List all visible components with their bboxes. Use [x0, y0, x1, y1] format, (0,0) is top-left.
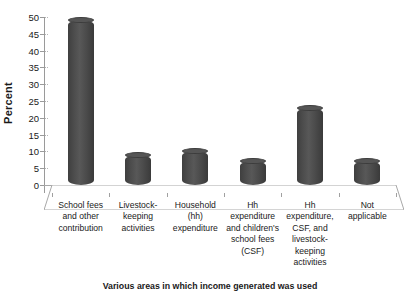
- y-tick-mark: [40, 34, 44, 35]
- y-tick-label: 5: [34, 163, 39, 174]
- y-tick-mark: [40, 151, 44, 152]
- y-tick-label: 10: [28, 146, 39, 157]
- bar: [297, 108, 323, 185]
- x-tick-mark: [167, 193, 168, 197]
- y-tick-inner-mark: [45, 168, 48, 169]
- plot-baseline: [44, 185, 396, 186]
- x-axis-ticks: [44, 193, 404, 198]
- category-label: School feesand othercontribution: [48, 200, 113, 234]
- x-tick-mark: [224, 193, 225, 197]
- x-tick-mark: [109, 193, 110, 197]
- y-tick-mark: [40, 17, 44, 18]
- plot-area: 05101520253035404550: [44, 17, 404, 193]
- bar: [182, 151, 208, 185]
- category-label: Livestock-keepingactivities: [105, 200, 170, 234]
- y-tick-inner-mark: [45, 17, 48, 18]
- bar-chart-figure: Percent 05101520253035404550 School fees…: [0, 0, 420, 308]
- y-axis-title: Percent: [2, 58, 18, 148]
- y-tick-label: 15: [28, 129, 39, 140]
- y-tick-inner-mark: [45, 101, 48, 102]
- x-tick-mark: [339, 193, 340, 197]
- category-label: Hhexpenditure,CSF, andlivestock-keepinga…: [277, 200, 342, 268]
- y-tick-inner-mark: [45, 67, 48, 68]
- x-tick-mark: [281, 193, 282, 197]
- y-tick-label: 40: [28, 45, 39, 56]
- y-tick-inner-mark: [45, 84, 48, 85]
- y-tick-label: 0: [34, 180, 39, 191]
- x-tick-mark: [396, 193, 397, 197]
- category-label: Household(hh)expenditure: [163, 200, 228, 234]
- y-tick-label: 30: [28, 79, 39, 90]
- y-tick-inner-mark: [45, 118, 48, 119]
- category-label: Hhexpenditureand children'sschool fees(C…: [220, 200, 285, 257]
- y-tick-inner-mark: [45, 135, 48, 136]
- y-tick-label: 25: [28, 96, 39, 107]
- x-axis-category-labels: School feesand othercontributionLivestoc…: [44, 200, 410, 272]
- y-axis-spine: [44, 17, 45, 193]
- y-tick-mark: [40, 51, 44, 52]
- y-tick-mark: [40, 168, 44, 169]
- y-tick-inner-mark: [45, 34, 48, 35]
- x-tick-mark: [52, 193, 53, 197]
- y-tick-mark: [40, 67, 44, 68]
- y-tick-label: 50: [28, 12, 39, 23]
- bar: [240, 161, 266, 185]
- category-label: Notapplicable: [335, 200, 400, 223]
- y-tick-inner-mark: [45, 51, 48, 52]
- x-axis-title: Various areas in which income generated …: [0, 281, 420, 291]
- y-tick-label: 45: [28, 28, 39, 39]
- bar: [68, 20, 94, 185]
- y-tick-mark: [40, 101, 44, 102]
- y-tick-mark: [40, 84, 44, 85]
- y-tick-mark: [40, 118, 44, 119]
- bar: [354, 161, 380, 185]
- y-tick-mark: [40, 135, 44, 136]
- bar: [125, 155, 151, 185]
- y-tick-label: 20: [28, 112, 39, 123]
- y-tick-label: 35: [28, 62, 39, 73]
- y-tick-inner-mark: [45, 151, 48, 152]
